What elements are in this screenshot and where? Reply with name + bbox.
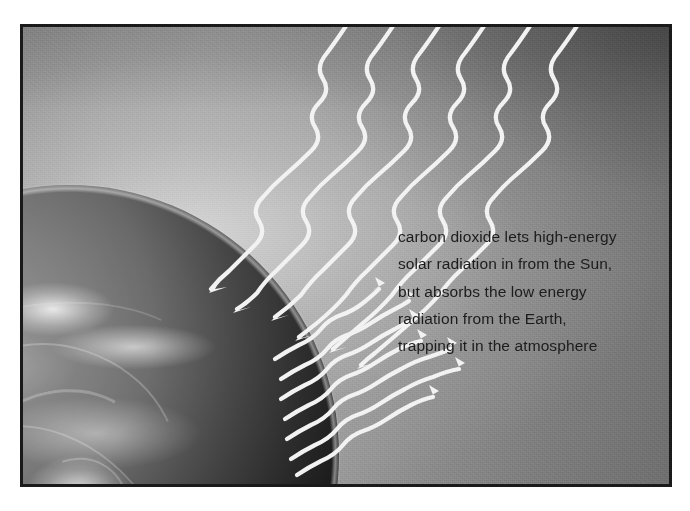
- caption-line-4: radiation from the Earth,: [398, 305, 672, 332]
- caption-line-1: carbon dioxide lets high-energy: [398, 223, 672, 250]
- earth-atmosphere-rim: [20, 182, 342, 487]
- illustration-frame: carbon dioxide lets high-energy solar ra…: [20, 24, 672, 487]
- earth-globe: [20, 185, 339, 487]
- caption-line-3: but absorbs the low energy: [398, 278, 672, 305]
- caption-line-5: trapping it in the atmosphere: [398, 332, 672, 359]
- caption-block: carbon dioxide lets high-energy solar ra…: [398, 223, 672, 359]
- caption-line-2: solar radiation in from the Sun,: [398, 250, 672, 277]
- figure-root: carbon dioxide lets high-energy solar ra…: [0, 0, 690, 511]
